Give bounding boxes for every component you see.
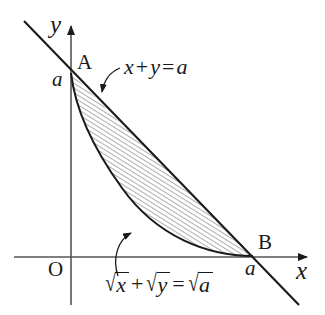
eq-curve-equals: = bbox=[170, 273, 186, 295]
eq-line-term-y: y bbox=[150, 56, 160, 78]
eq-curve-term-y: y bbox=[157, 272, 171, 296]
x-intercept-value-a: a bbox=[245, 258, 256, 279]
math-diagram-figure: y x A a B a O x + y = a √ x + √ y = √ a bbox=[0, 0, 325, 315]
eq-line-plus: + bbox=[134, 56, 150, 78]
radical-sign-x: √ bbox=[105, 272, 116, 296]
point-label-a: A bbox=[77, 52, 92, 73]
eq-line-equals: = bbox=[160, 56, 176, 78]
sqrt-group-a: √ a bbox=[187, 272, 213, 296]
leader-line-to-curve-label bbox=[116, 233, 131, 276]
sqrt-group-x: √ x bbox=[104, 272, 129, 296]
origin-label: O bbox=[48, 259, 63, 280]
eq-curve-term-x: x bbox=[115, 272, 129, 296]
radical-sign-a: √ bbox=[188, 272, 199, 296]
equation-curve-label: √ x + √ y = √ a bbox=[104, 272, 213, 296]
leader-line-to-line-label bbox=[102, 68, 120, 92]
x-axis-label: x bbox=[296, 258, 307, 283]
eq-curve-term-a: a bbox=[198, 272, 213, 296]
radical-sign-y: √ bbox=[147, 272, 158, 296]
eq-curve-plus: + bbox=[129, 273, 145, 295]
point-label-b: B bbox=[258, 232, 272, 253]
equation-line-label: x + y = a bbox=[124, 56, 187, 78]
y-axis-label: y bbox=[50, 12, 61, 37]
eq-line-term-a: a bbox=[176, 56, 187, 78]
eq-line-term-x: x bbox=[124, 56, 134, 78]
y-intercept-value-a: a bbox=[52, 69, 63, 90]
sqrt-group-y: √ y bbox=[145, 272, 170, 296]
